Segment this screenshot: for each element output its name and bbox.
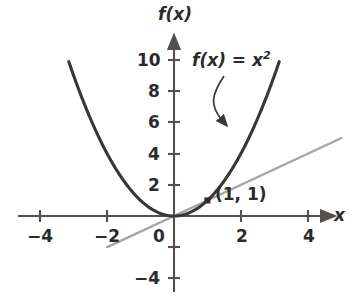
x-tick-label-2: 2	[236, 228, 248, 245]
point-marker-1-1	[204, 197, 210, 203]
graph-figure: f(x) x f(x) = x2 (1, 1) −4 −2 0 2 4 10 8…	[0, 0, 352, 306]
plot-canvas	[0, 0, 352, 306]
y-axis-name: f(x)	[158, 6, 192, 23]
function-label-base: x	[252, 50, 263, 70]
y-tick-label-neg4: −4	[134, 270, 160, 287]
annotation-arrow	[214, 76, 224, 120]
y-tick-label-6: 6	[148, 114, 160, 131]
y-tick-label-4: 4	[148, 146, 160, 163]
x-tick-label-neg2: −2	[94, 228, 120, 245]
y-tick-label-8: 8	[148, 83, 160, 100]
x-axis-name: x	[334, 207, 345, 224]
x-tick-label-4: 4	[303, 228, 315, 245]
x-tick-label-0: 0	[153, 228, 165, 245]
function-label-eq-wrap: =	[226, 50, 252, 70]
y-tick-label-2: 2	[148, 177, 160, 194]
x-tick-label-neg4: −4	[27, 228, 53, 245]
y-tick-label-10: 10	[137, 52, 161, 69]
function-label-fx: f(x)	[192, 50, 226, 70]
function-label-exponent: 2	[263, 49, 271, 62]
function-label: f(x) = x2	[192, 52, 271, 69]
point-annotation-label: (1, 1)	[215, 186, 267, 203]
